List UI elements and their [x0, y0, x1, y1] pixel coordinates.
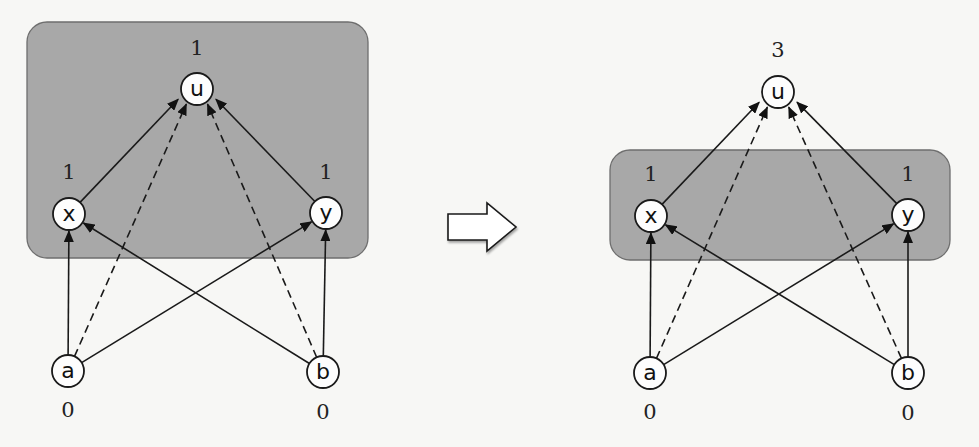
panel-after: u3x1y1a0b0 — [610, 38, 950, 425]
node-label: y — [901, 202, 914, 227]
node-u: u3 — [762, 38, 794, 108]
node-value: 0 — [61, 398, 74, 422]
node-value: 3 — [771, 38, 784, 62]
node-label: x — [644, 203, 657, 228]
node-label: b — [316, 359, 330, 384]
node-label: u — [190, 76, 204, 101]
node-b: b0 — [892, 357, 924, 425]
node-value: 1 — [644, 162, 657, 186]
node-label: b — [901, 360, 915, 385]
node-label: y — [319, 200, 332, 225]
node-value: 0 — [316, 400, 329, 424]
node-a: a0 — [52, 355, 84, 422]
node-value: 1 — [62, 160, 75, 184]
node-a: a0 — [634, 357, 666, 424]
node-label: a — [643, 360, 656, 385]
node-value: 1 — [190, 36, 203, 60]
node-label: x — [62, 201, 75, 226]
node-value: 1 — [901, 162, 914, 186]
edge-a-to-x — [68, 231, 69, 355]
edge-a-to-x — [650, 233, 651, 357]
right-arrow-icon — [448, 203, 516, 251]
node-label: a — [61, 358, 74, 383]
node-label: u — [771, 79, 785, 104]
node-value: 1 — [319, 160, 332, 184]
node-value: 0 — [901, 401, 914, 425]
node-value: 0 — [643, 400, 656, 424]
node-b: b0 — [307, 356, 339, 424]
diagram-canvas: u1x1y1a0b0 u3x1y1a0b0 — [0, 0, 979, 447]
panel-before: u1x1y1a0b0 — [27, 22, 368, 424]
